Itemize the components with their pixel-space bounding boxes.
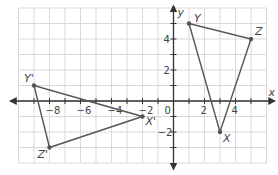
- x-tick-label: −6: [77, 105, 92, 116]
- x-tick-label: −8: [46, 105, 61, 116]
- vertex-label: Y: [194, 12, 202, 25]
- y-axis-label: y: [177, 6, 185, 19]
- x-tick-label: 2: [201, 105, 207, 116]
- vertex-point: [218, 130, 222, 134]
- vertex-point: [140, 114, 144, 118]
- x-axis-label: x: [268, 86, 276, 99]
- vertex-label: Z: [254, 25, 263, 38]
- coordinate-plane-figure: xy −8−6−4−202442−2 XYZX'Y'Z': [0, 0, 278, 175]
- y-tick-label: 2: [164, 65, 170, 76]
- vertex-point: [249, 37, 253, 41]
- coordinate-plane: xy −8−6−4−202442−2 XYZX'Y'Z': [0, 0, 278, 175]
- x-tick-label: 0: [165, 105, 171, 116]
- vertex-label: Z': [37, 148, 49, 161]
- vertex-label: X: [222, 132, 231, 145]
- vertex-label: Y': [24, 72, 34, 85]
- y-tick-label: −2: [158, 127, 173, 138]
- vertex-label: X': [145, 115, 157, 128]
- x-tick-label: 4: [232, 105, 238, 116]
- vertex-point: [187, 21, 191, 25]
- y-tick-label: 4: [164, 34, 170, 45]
